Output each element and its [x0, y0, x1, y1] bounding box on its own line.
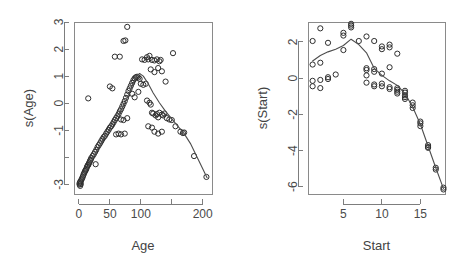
figure-background — [0, 0, 467, 263]
x-tick-label: 5 — [340, 207, 347, 221]
y-tick-label: -1 — [52, 125, 66, 136]
x-tick-label: 0 — [76, 207, 83, 221]
x-tick-label: 50 — [103, 207, 117, 221]
y-tick-label: 1 — [52, 73, 66, 80]
y-tick-label: -4 — [286, 145, 300, 156]
x-tick-label: 15 — [414, 207, 428, 221]
gam-partial-effect-figure: -3-10123050100200Ages(Age) -6-4-20251015… — [0, 0, 467, 263]
x-axis-title: Age — [131, 238, 154, 253]
y-tick-label: 0 — [286, 74, 300, 81]
y-tick-label: 2 — [52, 45, 66, 52]
x-tick-label: 100 — [131, 207, 151, 221]
x-tick-label: 200 — [193, 207, 213, 221]
y-tick-label: 0 — [52, 100, 66, 107]
y-tick-label: 3 — [52, 18, 66, 25]
y-axis-title: s(Age) — [21, 89, 36, 127]
x-axis-title: Start — [363, 238, 391, 253]
y-axis-title: s(Start) — [255, 87, 270, 130]
y-tick-label: -2 — [286, 109, 300, 120]
plot-canvas: -3-10123050100200Ages(Age) -6-4-20251015… — [0, 0, 467, 263]
y-tick-label: 2 — [286, 38, 300, 45]
y-tick-label: -6 — [286, 181, 300, 192]
x-tick-label: 10 — [375, 207, 389, 221]
y-tick-label: -3 — [52, 179, 66, 190]
